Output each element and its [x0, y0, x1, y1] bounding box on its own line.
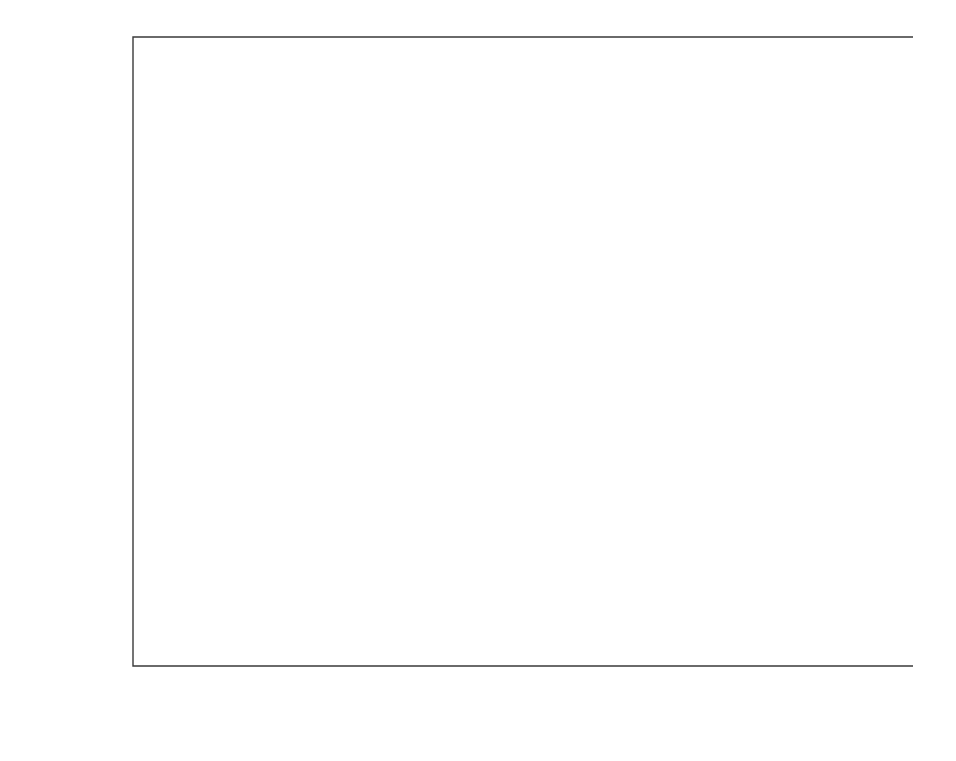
chart-page [0, 0, 956, 761]
axes [133, 37, 913, 666]
parity-plot [0, 0, 956, 761]
plot-frame [133, 37, 913, 666]
